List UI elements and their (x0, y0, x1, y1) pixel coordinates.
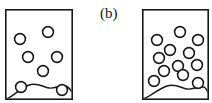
bubble-circle (192, 60, 203, 71)
bubble-circle (193, 78, 204, 89)
bubble-circle (57, 85, 68, 96)
bubble-circle (154, 53, 165, 64)
bubble-circle (184, 48, 195, 59)
panel-label-b: (b) (100, 6, 118, 21)
bubble-circle (149, 76, 160, 87)
bubble-circle (38, 66, 49, 77)
bubble-circle (23, 52, 34, 63)
bubble-circle (152, 35, 163, 46)
bubble-circle (15, 34, 26, 45)
figure-container: (b) Two rectangular panels containing op… (0, 0, 212, 103)
figure-description: Two rectangular panels containing open c… (0, 0, 1, 1)
bubble-circle (43, 27, 54, 38)
bubble-circle (52, 52, 63, 63)
right-panel (142, 9, 209, 100)
bubble-circle (193, 35, 204, 46)
bubble-circle (175, 27, 186, 38)
bubble-circle (16, 82, 27, 93)
bubble-circle (159, 66, 170, 77)
bubble-circle (165, 45, 176, 56)
bubble-circle (178, 70, 189, 81)
left-panel (5, 9, 73, 100)
